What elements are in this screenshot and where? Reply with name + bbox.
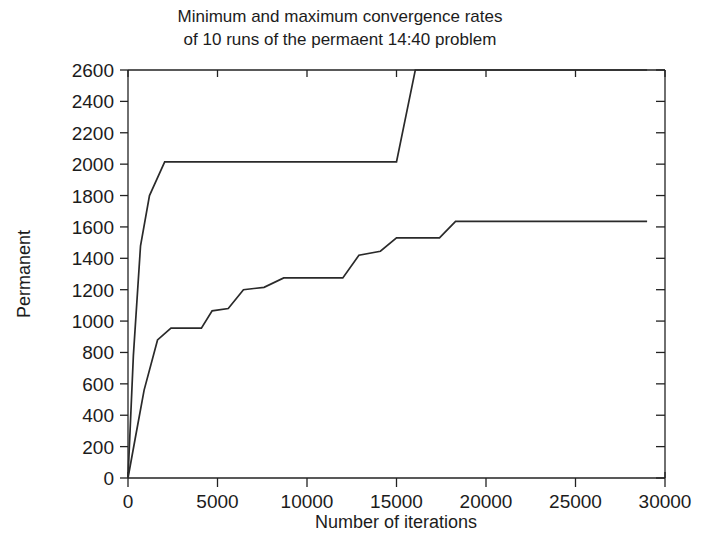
- chart-title-line-1: Minimum and maximum convergence rates: [177, 7, 502, 26]
- y-tick-label: 2600: [72, 60, 114, 81]
- x-tick-label: 0: [123, 491, 134, 512]
- convergence-rates-chart: Minimum and maximum convergence rates of…: [0, 0, 721, 550]
- y-tick-label: 2000: [72, 154, 114, 175]
- x-tick-label: 10000: [281, 491, 334, 512]
- y-tick-label: 400: [82, 405, 114, 426]
- y-tick-label: 200: [82, 437, 114, 458]
- y-tick-label: 1000: [72, 311, 114, 332]
- chart-page: Minimum and maximum convergence rates of…: [0, 0, 721, 550]
- x-tick-label: 20000: [460, 491, 513, 512]
- y-tick-label: 2200: [72, 123, 114, 144]
- y-tick-label: 1600: [72, 217, 114, 238]
- y-tick-label: 600: [82, 374, 114, 395]
- x-axis-title: Number of iterations: [315, 512, 477, 532]
- y-tick-label: 0: [103, 468, 114, 489]
- plot-area-background: [128, 70, 665, 478]
- y-axis-title: Permanent: [14, 230, 34, 318]
- chart-title-line-2: of 10 runs of the permaent 14:40 problem: [184, 30, 497, 49]
- x-tick-label: 30000: [639, 491, 692, 512]
- y-tick-label: 2400: [72, 91, 114, 112]
- x-tick-label: 25000: [549, 491, 602, 512]
- x-tick-label: 15000: [370, 491, 423, 512]
- y-tick-label: 800: [82, 342, 114, 363]
- x-tick-label: 5000: [196, 491, 238, 512]
- y-tick-label: 1200: [72, 280, 114, 301]
- y-tick-label: 1400: [72, 248, 114, 269]
- y-tick-label: 1800: [72, 186, 114, 207]
